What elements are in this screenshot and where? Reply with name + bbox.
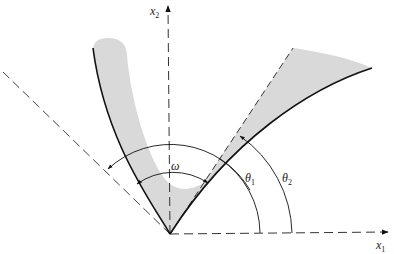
theta1-arc [220, 159, 260, 233]
x2-axis-label: x2 [149, 4, 159, 20]
theta1-label: θ1 [245, 171, 255, 187]
x1-axis [170, 232, 388, 234]
x1-axis-label: x1 [375, 238, 385, 254]
omega-label: ω [171, 159, 179, 173]
diagram-canvas: x2 x1 ω θ1 θ2 [0, 0, 394, 254]
theta2-label: θ2 [282, 171, 292, 187]
right-shaded-region [170, 48, 372, 234]
